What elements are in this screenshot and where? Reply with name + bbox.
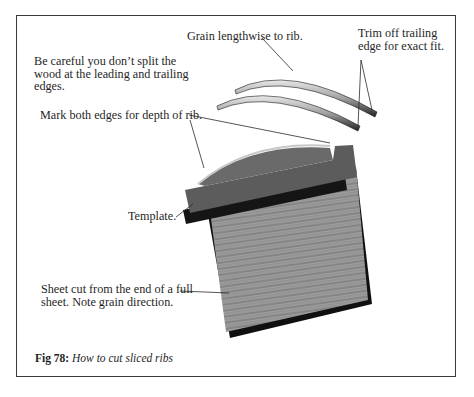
mark-annotation: Mark both edges for depth of rib. xyxy=(40,109,202,122)
sheet-annotation: Sheet cut from the end of a full sheet. … xyxy=(41,283,193,308)
trim-annotation: Trim off trailing edge for exact fit. xyxy=(358,27,444,52)
figure-title: How to cut sliced ribs xyxy=(72,352,173,364)
rib-lower xyxy=(217,96,360,131)
grain-annotation: Grain lengthwise to rib. xyxy=(187,30,303,43)
split-warning-annotation: Be careful you don’t split the wood at t… xyxy=(34,55,189,93)
figure-caption: Fig 78: How to cut sliced ribs xyxy=(35,352,173,364)
figure-number: Fig 78: xyxy=(35,352,69,364)
template-annotation: Template. xyxy=(128,210,176,223)
